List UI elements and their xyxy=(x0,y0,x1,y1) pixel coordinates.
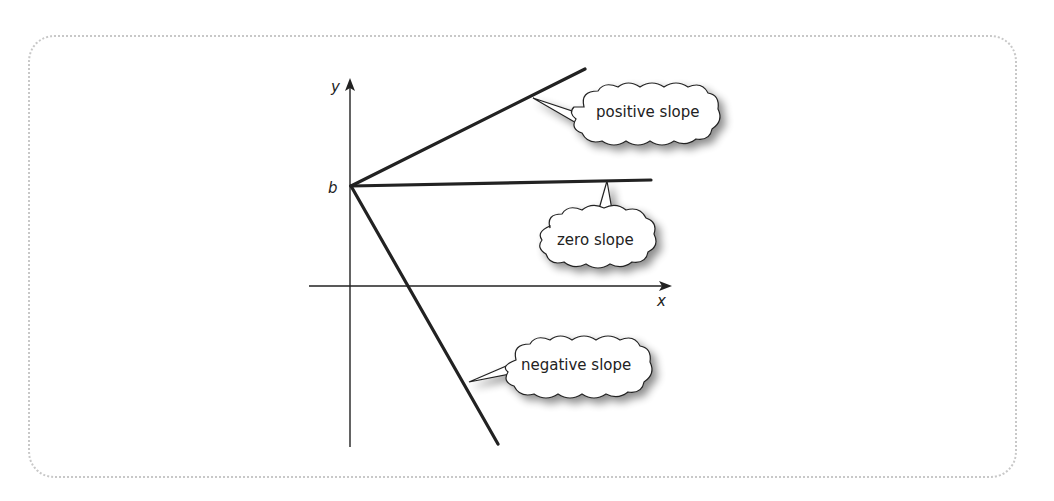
x-axis xyxy=(309,281,672,291)
zero-slope-label: zero slope xyxy=(557,231,634,249)
negative-slope-label: negative slope xyxy=(521,356,631,374)
x-axis-label: x xyxy=(656,292,666,310)
positive-slope-line xyxy=(351,69,585,186)
negative-slope-line xyxy=(351,186,498,444)
y-axis xyxy=(345,78,355,447)
y-axis-label: y xyxy=(330,78,341,96)
intercept-label: b xyxy=(328,179,338,197)
positive-slope-label: positive slope xyxy=(596,103,700,121)
zero-slope-callout xyxy=(540,181,656,268)
slope-diagram: y x b positive slope zero slope negative… xyxy=(0,0,1054,501)
